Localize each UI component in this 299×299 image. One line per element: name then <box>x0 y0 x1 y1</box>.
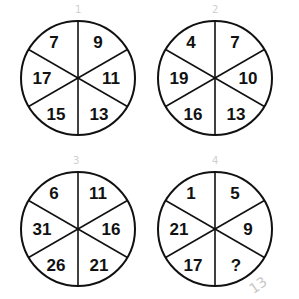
segment-bottom-right-unknown: ? <box>221 256 251 276</box>
wheel-1: 7 9 11 13 15 17 <box>19 19 137 137</box>
segment-top-left: 6 <box>39 184 69 204</box>
segment-bottom-left: 17 <box>178 256 208 276</box>
wheel-4: 1 5 9 ? 17 21 <box>156 170 274 288</box>
segment-right: 10 <box>233 69 263 89</box>
segment-bottom-right: 21 <box>84 256 114 276</box>
segment-top-left: 7 <box>39 33 69 53</box>
segment-bottom-right: 13 <box>221 105 251 125</box>
segment-right: 16 <box>96 220 126 240</box>
wheel-2: 4 7 10 13 16 19 <box>156 19 274 137</box>
pencil-mark-1: 1 <box>75 4 81 15</box>
segment-top-right: 11 <box>83 184 113 204</box>
pencil-mark-3: 3 <box>73 155 79 166</box>
segment-left: 31 <box>27 220 57 240</box>
segment-left: 21 <box>164 220 194 240</box>
segment-top-right: 7 <box>220 33 250 53</box>
segment-bottom-right: 13 <box>84 105 114 125</box>
segment-right: 9 <box>233 220 263 240</box>
pencil-mark-4: 4 <box>212 155 218 166</box>
segment-right: 11 <box>96 69 126 89</box>
segment-top-right: 5 <box>220 184 250 204</box>
segment-top-right: 9 <box>83 33 113 53</box>
segment-left: 19 <box>164 69 194 89</box>
segment-top-left: 4 <box>176 33 206 53</box>
segment-bottom-left: 15 <box>41 105 71 125</box>
segment-left: 17 <box>27 69 57 89</box>
wheel-3: 6 11 16 21 26 31 <box>19 170 137 288</box>
segment-bottom-left: 16 <box>178 105 208 125</box>
pencil-mark-2: 2 <box>212 4 218 15</box>
segment-top-left: 1 <box>176 184 206 204</box>
segment-bottom-left: 26 <box>41 256 71 276</box>
